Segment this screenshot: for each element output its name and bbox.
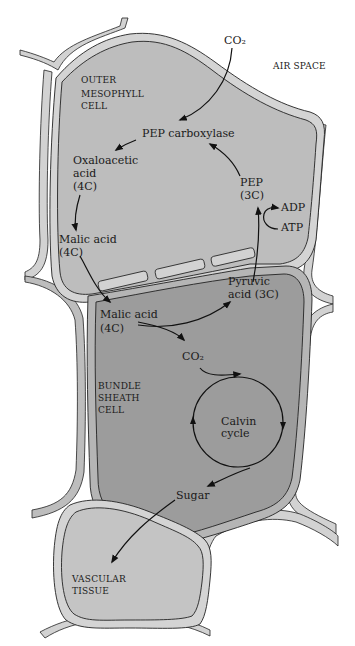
label-air-space: AIR SPACE — [272, 61, 326, 71]
label-bundle-sheath-2: SHEATH — [98, 393, 140, 403]
label-malic-bundle-2: (4C) — [100, 322, 124, 335]
label-co2-in: CO₂ — [224, 34, 246, 47]
label-bundle-sheath-1: BUNDLE — [98, 381, 141, 391]
label-pep-1: PEP — [240, 176, 263, 189]
label-malic-meso-1: Malic acid — [59, 233, 117, 246]
label-pep-carboxylase: PEP carboxylase — [142, 127, 235, 140]
c4-pathway-diagram: AIR SPACE OUTER MESOPHYLL CELL CO₂ PEP c… — [0, 0, 355, 646]
label-oxaloacetic-3: (4C) — [73, 180, 97, 193]
label-outer-mesophyll-1: OUTER — [81, 75, 116, 85]
label-oxaloacetic-1: Oxaloacetic — [73, 154, 138, 167]
label-pyruvic-2: acid (3C) — [228, 288, 279, 301]
label-vascular-1: VASCULAR — [71, 574, 126, 584]
label-sugar: Sugar — [176, 489, 210, 502]
label-pep-2: (3C) — [240, 189, 264, 202]
label-bundle-sheath-3: CELL — [98, 405, 124, 415]
label-outer-mesophyll-2: MESOPHYLL — [81, 89, 144, 99]
label-atp: ATP — [280, 221, 304, 234]
label-calvin-2: cycle — [221, 427, 250, 440]
label-vascular-2: TISSUE — [72, 586, 109, 596]
label-oxaloacetic-2: acid — [73, 167, 96, 180]
label-malic-meso-2: (4C) — [59, 246, 83, 259]
label-adp: ADP — [280, 201, 306, 214]
label-malic-bundle-1: Malic acid — [100, 308, 158, 321]
label-outer-mesophyll-3: CELL — [81, 101, 107, 111]
label-pyruvic-1: Pyruvic — [228, 275, 270, 288]
label-co2-bundle: CO₂ — [182, 350, 204, 363]
